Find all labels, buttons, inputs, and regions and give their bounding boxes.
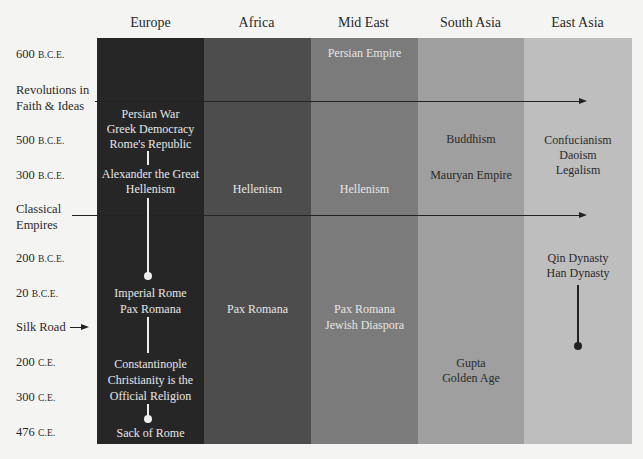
column-east-asia <box>524 38 632 444</box>
column-header-south-asia: South Asia <box>417 15 524 31</box>
row-label-300-ce: 300 C.E. <box>16 389 56 406</box>
classical-empires-arrowhead-icon <box>579 212 587 218</box>
row-label-silk-road: Silk Road <box>16 319 66 335</box>
row-label-476-ce: 476 C.E. <box>16 424 56 441</box>
mid-east-pax-romana: Pax Romana <box>311 301 418 317</box>
column-mid-east <box>311 38 418 444</box>
europe-imperial-rome: Imperial Rome <box>97 285 204 301</box>
east-asia-han-dynasty: Han Dynasty <box>524 265 632 281</box>
east-asia-confucianism: Confucianism <box>524 132 632 148</box>
mid-east-persian-empire: Persian Empire <box>311 45 418 61</box>
row-label-300-bce: 300 B.C.E. <box>16 167 65 184</box>
europe-official-religion: Official Religion <box>97 388 204 404</box>
silk-road-arrowhead-icon <box>81 324 89 330</box>
europe-greek-democracy: Greek Democracy <box>97 121 204 137</box>
column-header-europe: Europe <box>97 15 204 31</box>
europe-timeline-dot-1 <box>144 272 152 280</box>
row-label-200-bce: 200 B.C.E. <box>16 250 65 267</box>
europe-timeline-segment-2 <box>147 198 149 274</box>
south-asia-gupta: Gupta <box>418 355 524 371</box>
row-label-classical-empires: ClassicalEmpires <box>16 201 61 233</box>
east-asia-daoism: Daoism <box>524 147 632 163</box>
mid-east-jewish-diaspora: Jewish Diaspora <box>311 317 418 333</box>
south-asia-mauryan-empire: Mauryan Empire <box>418 167 524 183</box>
east-asia-timeline-dot <box>574 342 582 350</box>
europe-timeline-dot-2 <box>144 415 152 423</box>
south-asia-golden-age: Golden Age <box>418 370 524 386</box>
revolutions-arrowhead-icon <box>579 98 587 104</box>
revolutions-arrow-line <box>95 101 579 102</box>
europe-alexander: Alexander the Great <box>97 166 204 182</box>
europe-timeline-segment-1 <box>147 151 149 165</box>
europe-constantinople: Constantinople <box>97 356 204 372</box>
europe-sack-of-rome: Sack of Rome <box>97 425 204 441</box>
row-label-200-ce: 200 C.E. <box>16 354 56 371</box>
column-header-east-asia: East Asia <box>524 15 631 31</box>
africa-pax-romana: Pax Romana <box>204 301 311 317</box>
africa-hellenism: Hellenism <box>204 181 311 197</box>
column-header-mid-east: Mid East <box>310 15 417 31</box>
south-asia-buddhism: Buddhism <box>418 131 524 147</box>
europe-romes-republic: Rome's Republic <box>97 136 204 152</box>
column-header-africa: Africa <box>203 15 310 31</box>
europe-hellenism: Hellenism <box>97 181 204 197</box>
column-africa <box>204 38 311 444</box>
europe-pax-romana: Pax Romana <box>97 301 204 317</box>
europe-timeline-segment-3 <box>147 317 149 353</box>
europe-christianity: Christianity is the <box>97 372 204 388</box>
silk-road-arrow-line <box>70 327 81 328</box>
east-asia-qin-dynasty: Qin Dynasty <box>524 250 632 266</box>
europe-persian-war: Persian War <box>97 106 204 122</box>
row-label-20-bce: 20 B.C.E. <box>16 285 58 302</box>
east-asia-timeline-segment <box>577 285 579 345</box>
row-label-600-bce: 600 B.C.E. <box>16 46 65 63</box>
row-label-revolutions: Revolutions inFaith & Ideas <box>16 82 89 114</box>
mid-east-hellenism: Hellenism <box>311 181 418 197</box>
row-label-500-bce: 500 B.C.E. <box>16 132 65 149</box>
east-asia-legalism: Legalism <box>524 162 632 178</box>
